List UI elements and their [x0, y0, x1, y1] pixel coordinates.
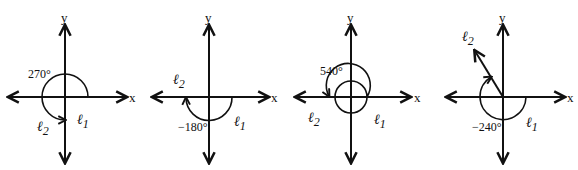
angle-label: 270° [28, 67, 51, 81]
y-label: y [347, 10, 354, 25]
angle-label: 540° [320, 64, 343, 78]
y-label: y [61, 10, 68, 25]
panel-3: x y 540° ℓ1 ℓ2 [296, 10, 421, 162]
y-label: y [499, 10, 506, 25]
x-label: x [414, 90, 421, 105]
y-label: y [205, 10, 212, 25]
panel-2: x y −180° ℓ1 ℓ2 [153, 10, 278, 162]
angle-label: −240° [472, 120, 502, 134]
panel-1: x y 270° ℓ1 ℓ2 [9, 10, 136, 162]
ray-l1-label: ℓ1 [374, 112, 386, 131]
panel-4: x y −240° ℓ1 ℓ2 [447, 10, 574, 162]
ray-l2-label: ℓ2 [173, 72, 185, 91]
ray-l2-label: ℓ2 [308, 110, 320, 129]
angle-label: −180° [178, 120, 208, 134]
angle-diagrams: x y 270° ℓ1 ℓ2 x y −180° ℓ1 ℓ2 x y 540° … [0, 0, 578, 170]
ray-l1-label: ℓ1 [77, 112, 89, 131]
x-label: x [567, 90, 574, 105]
ray-l1-label: ℓ1 [526, 115, 538, 134]
x-label: x [271, 90, 278, 105]
ray-l1-label: ℓ1 [234, 114, 246, 133]
ray-l2-label: ℓ2 [462, 29, 474, 48]
ray-l2 [475, 51, 503, 97]
ray-l2-label: ℓ2 [37, 119, 49, 138]
x-label: x [129, 90, 136, 105]
